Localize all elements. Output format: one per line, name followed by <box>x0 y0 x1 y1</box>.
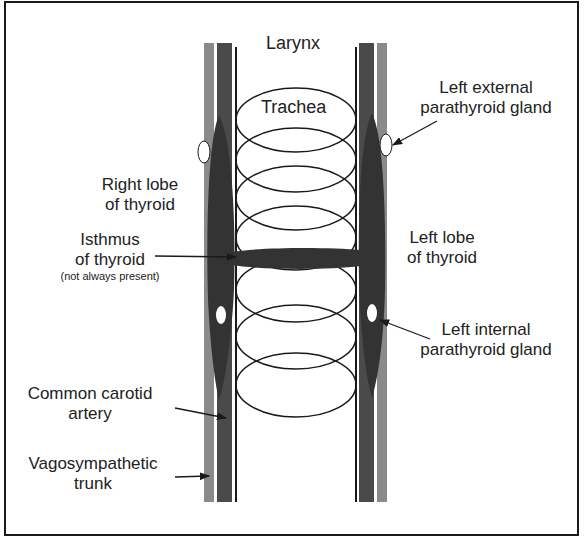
isthmus-label: Isthmus of thyroid (not always present) <box>50 230 170 283</box>
label-line: Isthmus <box>50 230 170 250</box>
right-lobe-label: Right lobe of thyroid <box>90 175 190 215</box>
label-line: Left internal <box>406 320 566 340</box>
label-line: Left lobe <box>392 228 492 248</box>
thyroid-isthmus <box>232 248 360 269</box>
left-internal-parathyroid-gland <box>367 304 377 322</box>
label-line: parathyroid gland <box>406 98 566 118</box>
right-internal-parathyroid-gland <box>216 306 226 324</box>
pointer-arrows <box>155 121 437 477</box>
label-line: Vagosympathetic <box>18 454 168 474</box>
right-external-parathyroid-gland <box>198 141 210 163</box>
left-lobe-label: Left lobe of thyroid <box>392 228 492 268</box>
common-carotid-label: Common carotid artery <box>20 384 160 424</box>
larynx-label: Larynx <box>266 33 320 53</box>
vagosympathetic-label: Vagosympathetic trunk <box>18 454 168 494</box>
label-line: artery <box>20 404 160 424</box>
left-external-parathyroid-gland <box>380 134 392 156</box>
vagosympathetic-arrow <box>175 476 209 477</box>
label-line: of thyroid <box>392 248 492 268</box>
label-line: Common carotid <box>20 384 160 404</box>
trachea-label: Trachea <box>261 97 326 117</box>
label-line: trunk <box>18 474 168 494</box>
label-line: of thyroid <box>50 250 170 270</box>
isthmus-note: (not always present) <box>50 270 170 283</box>
label-line: of thyroid <box>90 195 190 215</box>
left-external-parathyroid-label: Left external parathyroid gland <box>406 78 566 118</box>
left-external-parathyroid-arrow <box>393 121 437 145</box>
label-line: Left external <box>406 78 566 98</box>
label-line: parathyroid gland <box>406 340 566 360</box>
left-internal-parathyroid-label: Left internal parathyroid gland <box>406 320 566 360</box>
label-line: Right lobe <box>90 175 190 195</box>
